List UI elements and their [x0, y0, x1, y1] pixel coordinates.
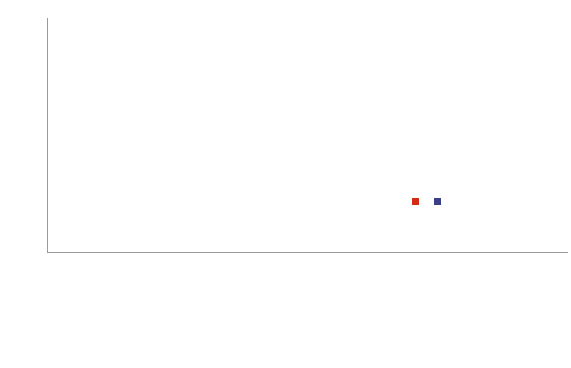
legend-item-stage-i-iii [434, 198, 445, 205]
legend-item-stage-iv [412, 198, 423, 205]
bar-series-container [48, 18, 568, 252]
plot-area [47, 18, 568, 253]
msi-h-solid-tumor-bar-chart [0, 0, 571, 368]
legend-swatch-red-icon [412, 198, 419, 205]
chart-legend [412, 198, 445, 205]
x-axis-tick-labels [47, 256, 568, 366]
legend-swatch-blue-icon [434, 198, 441, 205]
y-axis-tick-labels [14, 0, 46, 368]
